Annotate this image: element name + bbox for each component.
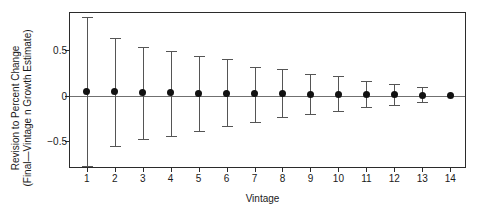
data-point-group	[310, 13, 311, 167]
error-bar-cap-upper	[82, 17, 93, 18]
error-bar-cap-lower	[361, 107, 372, 108]
error-bar-cap-lower	[333, 111, 344, 112]
y-axis-title-line-2: (Final—Vintage n Growth Estimate)	[22, 29, 35, 186]
x-axis-tick	[199, 167, 200, 172]
error-bar-cap-upper	[277, 69, 288, 70]
x-axis-tick	[422, 167, 423, 172]
data-point-group	[87, 13, 88, 167]
error-bar-cap-upper	[222, 59, 233, 60]
error-bar-cap-lower	[417, 102, 428, 103]
error-bar-cap-lower	[194, 131, 205, 132]
data-point-marker	[335, 91, 342, 98]
x-axis-tick-label: 4	[168, 173, 174, 184]
x-axis-tick	[115, 167, 116, 172]
data-point-marker	[195, 90, 202, 97]
error-bar-cap-lower	[82, 166, 93, 167]
error-bar-cap-upper	[194, 56, 205, 57]
error-bar-cap-lower	[166, 136, 177, 137]
chart-screenshot: Revision to Percent Change (Final—Vintag…	[0, 0, 481, 216]
x-axis-tick	[227, 167, 228, 172]
x-axis-tick	[255, 167, 256, 172]
data-point-group	[366, 13, 367, 167]
x-axis-title-text: Vintage	[246, 193, 280, 204]
data-point-group	[143, 13, 144, 167]
data-point-group	[115, 13, 116, 167]
error-bar-cap-lower	[110, 146, 121, 147]
x-axis-tick	[87, 167, 88, 172]
data-point-group	[199, 13, 200, 167]
x-axis-tick-label: 13	[417, 173, 428, 184]
data-point-group	[282, 13, 283, 167]
data-point-group	[422, 13, 423, 167]
data-point-group	[227, 13, 228, 167]
error-bar-cap-upper	[138, 47, 149, 48]
error-bar-cap-upper	[166, 51, 177, 52]
x-axis-tick-label: 1	[84, 173, 90, 184]
data-point-marker	[139, 89, 146, 96]
error-bar-cap-upper	[110, 38, 121, 39]
data-point-marker	[363, 91, 370, 98]
error-bar-cap-lower	[277, 117, 288, 118]
data-point-marker	[447, 92, 454, 99]
x-axis-tick	[143, 167, 144, 172]
x-axis-tick-label: 7	[252, 173, 258, 184]
x-axis-tick	[450, 167, 451, 172]
error-bar-cap-lower	[389, 105, 400, 106]
y-axis-title: Revision to Percent Change (Final—Vintag…	[0, 0, 44, 216]
plot-inner: −0.500.51234567891011121314	[70, 13, 465, 167]
error-bar-cap-lower	[138, 139, 149, 140]
x-axis-tick	[171, 167, 172, 172]
data-point-group	[394, 13, 395, 167]
error-bar-cap-upper	[305, 74, 316, 75]
data-point-marker	[419, 92, 426, 99]
x-axis-tick-label: 14	[445, 173, 456, 184]
x-axis-tick-label: 2	[112, 173, 118, 184]
y-axis-tick-label: 0	[61, 90, 67, 101]
data-point-group	[450, 13, 451, 167]
data-point-marker	[307, 91, 314, 98]
data-point-marker	[223, 90, 230, 97]
error-bar-cap-lower	[222, 126, 233, 127]
error-bar-cap-upper	[250, 67, 261, 68]
x-axis-tick-label: 11	[361, 173, 371, 184]
data-point-marker	[391, 91, 398, 98]
data-point-marker	[83, 88, 90, 95]
x-axis-tick	[394, 167, 395, 172]
y-axis-tick-label: −0.5	[47, 135, 67, 146]
x-axis-tick	[282, 167, 283, 172]
x-axis-tick-label: 5	[196, 173, 202, 184]
error-bar-cap-upper	[333, 76, 344, 77]
data-point-group	[255, 13, 256, 167]
error-bar-cap-upper	[389, 84, 400, 85]
zero-reference-line	[70, 96, 465, 97]
x-axis-tick	[366, 167, 367, 172]
error-bar-cap-lower	[250, 122, 261, 123]
error-bar-cap-upper	[361, 81, 372, 82]
x-axis-tick-label: 8	[280, 173, 286, 184]
data-point-marker	[111, 88, 118, 95]
x-axis-tick-label: 3	[140, 173, 146, 184]
y-axis-tick-label: 0.5	[53, 45, 67, 56]
x-axis-tick	[310, 167, 311, 172]
x-axis-tick-label: 12	[389, 173, 400, 184]
x-axis-tick-label: 10	[333, 173, 344, 184]
error-bar-cap-lower	[305, 114, 316, 115]
x-axis-title: Vintage	[0, 193, 481, 204]
y-axis-title-line-1: Revision to Percent Change	[10, 46, 23, 171]
plot-area: −0.500.51234567891011121314	[69, 12, 466, 168]
x-axis-tick	[338, 167, 339, 172]
x-axis-tick-label: 9	[308, 173, 314, 184]
data-point-group	[171, 13, 172, 167]
error-bar-cap-upper	[417, 87, 428, 88]
data-point-group	[338, 13, 339, 167]
x-axis-tick-label: 6	[224, 173, 230, 184]
